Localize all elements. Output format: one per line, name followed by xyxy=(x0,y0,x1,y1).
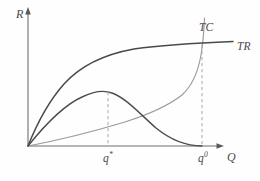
x-axis-arrow-icon xyxy=(217,143,225,149)
q-star-superscript: * xyxy=(109,150,113,159)
total-cost-curve xyxy=(28,18,205,146)
y-axis-arrow-icon xyxy=(25,7,31,15)
x-axis-label: Q xyxy=(227,151,236,163)
q-zero-superscript: 0 xyxy=(204,150,208,159)
economics-figure: R Q TC TR q* q0 xyxy=(0,0,260,181)
total-revenue-label: TR xyxy=(237,41,251,53)
plot-canvas xyxy=(0,0,260,181)
total-cost-label: TC xyxy=(199,22,213,34)
q-zero-label: q0 xyxy=(198,151,208,164)
y-axis-label: R xyxy=(16,8,24,20)
q-star-label: q* xyxy=(103,151,113,164)
